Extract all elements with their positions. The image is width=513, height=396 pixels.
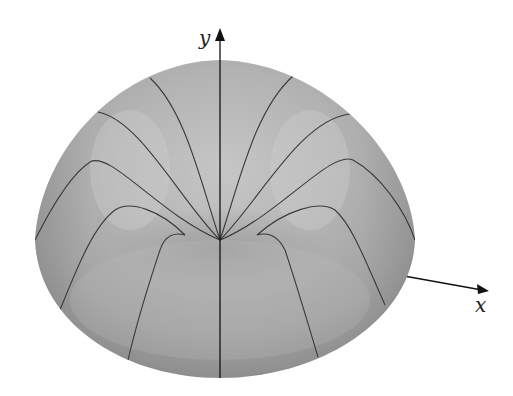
y-axis-arrowhead-icon xyxy=(215,28,225,41)
x-axis xyxy=(404,276,489,294)
surface-body xyxy=(30,55,420,385)
torus-surface-diagram xyxy=(0,0,513,396)
y-axis-label: y xyxy=(199,28,210,48)
x-axis-label: x xyxy=(475,295,486,315)
